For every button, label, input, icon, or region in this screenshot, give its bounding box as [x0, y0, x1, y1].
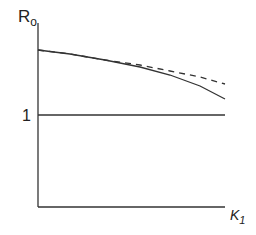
- y-tick-1: 1: [22, 107, 31, 124]
- solid-curve: [38, 50, 225, 99]
- chart: Ro 1 K1: [0, 0, 256, 235]
- x-axis-label: K1: [230, 207, 245, 226]
- dashed-curve: [38, 50, 225, 84]
- y-axis-label: Ro: [18, 7, 37, 29]
